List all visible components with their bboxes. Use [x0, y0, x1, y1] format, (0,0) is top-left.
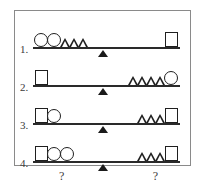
left-pan-4 — [35, 146, 74, 161]
balance-row-1: 1. — [15, 17, 190, 53]
triangle-shape — [78, 38, 88, 47]
puzzle-frame: 1. 2. 3. — [14, 10, 191, 166]
circle-shape — [47, 147, 61, 161]
circle-shape — [60, 147, 74, 161]
fulcrum-triangle-icon — [98, 164, 108, 171]
triangle-shape — [155, 76, 165, 85]
triangle-shape — [155, 152, 165, 161]
balance-row-4: 4. ? ? — [15, 131, 190, 167]
balance-beam-2 — [33, 85, 180, 87]
circle-shape — [47, 109, 61, 123]
right-pan-1 — [165, 32, 178, 47]
balance-row-2: 2. — [15, 55, 190, 91]
balance-beam-1 — [33, 47, 180, 49]
left-pan-2 — [35, 70, 48, 85]
square-shape — [165, 32, 178, 47]
square-shape — [35, 70, 48, 85]
triangle-shape — [155, 114, 165, 123]
row-label-4: 4. — [20, 158, 28, 169]
balance-row-3: 3. — [15, 93, 190, 129]
right-pan-3 — [138, 108, 178, 123]
balance-beam-4 — [33, 161, 180, 163]
left-pan-3 — [35, 108, 61, 123]
circle-shape — [34, 33, 48, 47]
circle-shape — [47, 33, 61, 47]
square-shape — [165, 108, 178, 123]
right-pan-4 — [138, 146, 178, 161]
question-mark-left: ? — [59, 170, 64, 177]
row-label-1: 1. — [20, 44, 28, 55]
right-pan-2 — [129, 71, 178, 85]
balance-beam-3 — [33, 123, 180, 125]
square-shape — [165, 146, 178, 161]
left-pan-1 — [35, 33, 88, 47]
row-label-2: 2. — [20, 82, 28, 93]
row-label-3: 3. — [20, 120, 28, 131]
question-mark-right: ? — [153, 170, 158, 177]
circle-shape — [164, 71, 178, 85]
